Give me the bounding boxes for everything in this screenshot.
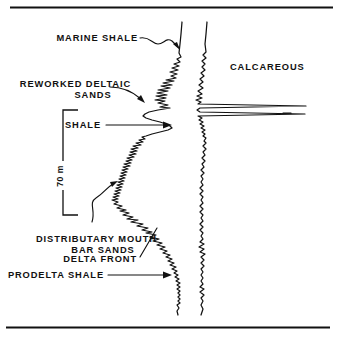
label-delta-front: DELTA FRONT <box>63 254 137 264</box>
label-calcareous: CALCAREOUS <box>230 62 305 72</box>
label-prodelta-shale: PRODELTA SHALE <box>8 270 104 280</box>
marine-shale-leader <box>140 38 178 47</box>
label-marine-shale: MARINE SHALE <box>56 33 138 43</box>
prodelta-shale-arrowhead <box>163 272 172 279</box>
left-log-curve <box>112 22 182 315</box>
label-reworked-deltaic-sands-line2: SANDS <box>74 90 111 100</box>
distributary-mouth-bar-sands-leader <box>92 184 113 222</box>
distributary-mouth-bar-sands-arrowhead <box>110 181 118 187</box>
label-reworked-deltaic-sands-line1: REWORKED DELTAIC <box>20 79 131 89</box>
label-shale: SHALE <box>65 120 101 130</box>
well-log-figure: MARINE SHALE REWORKED DELTAIC SANDS SHAL… <box>0 0 341 339</box>
label-scale-70m: 70 m <box>55 165 65 187</box>
label-distributary-mouth-bar-sands-line1: DISTRIBUTARY MOUTH <box>36 234 157 244</box>
figure-canvas: MARINE SHALE REWORKED DELTAIC SANDS SHAL… <box>0 0 341 339</box>
